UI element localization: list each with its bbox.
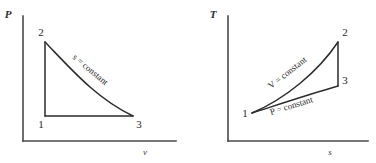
- ts-annotation-p-constant: P = constant: [269, 94, 315, 117]
- thermodynamic-diagram-figure: P v 1 2 3 s = constant T s: [0, 0, 376, 163]
- pv-state-label-3: 3: [136, 118, 142, 130]
- pv-process-2-to-3-isentrope: [45, 42, 133, 116]
- ts-state-label-2: 2: [342, 26, 348, 38]
- diagram-canvas: P v 1 2 3 s = constant T s: [0, 0, 376, 163]
- pv-state-label-2: 2: [38, 26, 44, 38]
- pv-x-axis-label: v: [143, 147, 147, 157]
- ts-state-label-3: 3: [342, 74, 348, 86]
- pressure-volume-diagram: P v 1 2 3 s = constant: [5, 8, 176, 157]
- ts-x-axis-label: s: [328, 147, 332, 157]
- pv-y-axis-label: P: [5, 8, 12, 20]
- pv-annotation-s-constant: s = constant: [71, 52, 111, 88]
- ts-y-axis-label: T: [210, 8, 218, 20]
- temperature-entropy-diagram: T s 1 2 3 V = constant P = constant: [210, 8, 368, 157]
- ts-state-label-1: 1: [242, 107, 248, 119]
- ts-annotation-v-constant: V = constant: [266, 54, 309, 90]
- pv-state-label-1: 1: [38, 118, 44, 130]
